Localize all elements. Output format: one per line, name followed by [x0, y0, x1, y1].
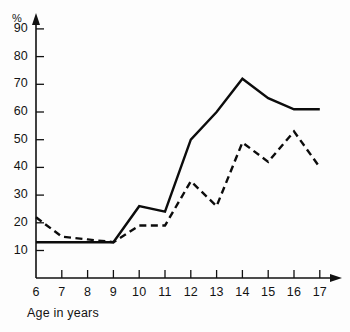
x-tick-label: 8 [77, 285, 99, 299]
x-tick-label: 16 [283, 285, 305, 299]
y-tick-label: 80 [2, 49, 28, 63]
series-group [36, 79, 320, 242]
x-tick-label: 9 [102, 285, 124, 299]
x-tick-label: 17 [309, 285, 331, 299]
y-tick-label: 20 [2, 215, 28, 229]
y-tick-label: 30 [2, 187, 28, 201]
x-axis-arrow-icon [330, 274, 342, 282]
y-tick-label: 60 [2, 104, 28, 118]
x-tick-label: 12 [180, 285, 202, 299]
x-axis-title: Age in years [27, 306, 99, 320]
x-tick-label: 11 [154, 285, 176, 299]
y-axis-arrow-icon [32, 13, 40, 25]
y-tick-label: 50 [2, 132, 28, 146]
y-tick-label: 70 [2, 76, 28, 90]
series-line-solid-series [36, 79, 320, 242]
series-line-dashed-series [36, 131, 320, 242]
x-tick-label: 13 [206, 285, 228, 299]
line-chart: % 10203040506070809067891011121314151617… [0, 0, 350, 332]
chart-plot-area [0, 0, 350, 332]
x-tick-label: 7 [51, 285, 73, 299]
x-tick-label: 6 [25, 285, 47, 299]
y-tick-label: 90 [2, 21, 28, 35]
ticks-group [36, 29, 320, 278]
y-tick-label: 40 [2, 159, 28, 173]
x-tick-label: 10 [128, 285, 150, 299]
y-tick-label: 10 [2, 243, 28, 257]
x-tick-label: 15 [257, 285, 279, 299]
x-tick-label: 14 [231, 285, 253, 299]
